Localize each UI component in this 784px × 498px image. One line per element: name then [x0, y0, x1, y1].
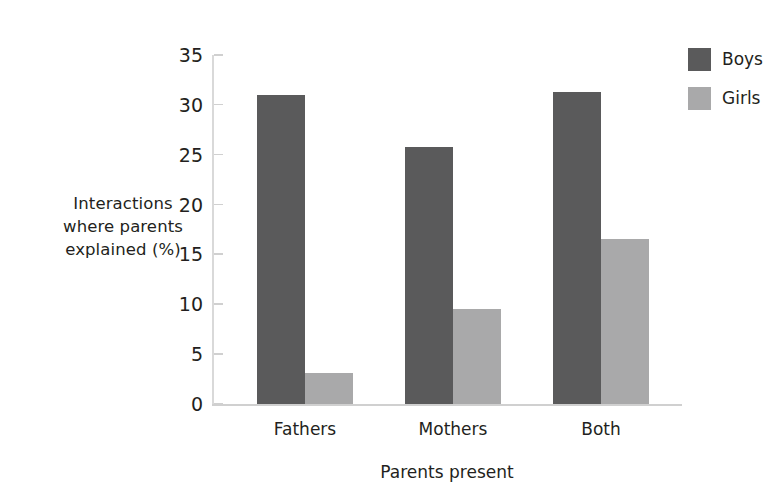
y-axis-tick-mark	[214, 303, 223, 305]
y-axis-tick-mark	[214, 104, 223, 106]
y-axis-line	[212, 55, 214, 404]
bar-mothers-boys	[405, 147, 453, 404]
legend-label-girls: Girls	[722, 90, 760, 107]
y-axis-label-line-3: explained (%)	[48, 238, 198, 261]
y-axis-tick-label: 5	[191, 345, 203, 364]
y-axis-tick-label: 30	[179, 95, 203, 114]
x-axis-label-both: Both	[581, 421, 621, 438]
y-axis-label-line-2: where parents	[48, 215, 198, 238]
bar-both-girls	[601, 239, 649, 404]
y-axis-tick-label: 0	[191, 395, 203, 414]
legend-swatch-girls-icon	[688, 87, 711, 110]
plot-area: 05101520253035 FathersMothersBoth	[212, 55, 682, 404]
y-axis-label-line-1: Interactions	[48, 192, 198, 215]
chart-legend: Boys Girls	[688, 48, 780, 126]
legend-swatch-boys-icon	[688, 48, 711, 71]
y-axis-tick-label: 20	[179, 195, 203, 214]
y-axis-label: Interactions where parents explained (%)	[48, 192, 198, 261]
bar-mothers-girls	[453, 309, 501, 404]
bar-fathers-girls	[305, 373, 353, 404]
y-axis-tick-mark	[214, 353, 223, 355]
y-axis-tick-mark	[214, 204, 223, 206]
legend-item-boys: Boys	[688, 48, 780, 71]
x-axis-line	[212, 404, 682, 406]
x-axis-label-fathers: Fathers	[274, 421, 336, 438]
legend-item-girls: Girls	[688, 87, 780, 110]
bar-fathers-boys	[257, 95, 305, 404]
y-axis-tick-label: 35	[179, 46, 203, 65]
y-axis-tick-mark	[214, 253, 223, 255]
x-axis-label-mothers: Mothers	[419, 421, 488, 438]
x-axis-title: Parents present	[212, 464, 682, 481]
y-axis-tick-mark	[214, 403, 223, 405]
y-axis-tick-label: 10	[179, 295, 203, 314]
y-axis-tick-label: 15	[179, 245, 203, 264]
legend-label-boys: Boys	[722, 51, 763, 68]
y-axis-tick-mark	[214, 154, 223, 156]
bar-both-boys	[553, 92, 601, 404]
y-axis-tick-label: 25	[179, 145, 203, 164]
bar-chart-figure: Interactions where parents explained (%)…	[0, 0, 784, 498]
y-axis-tick-mark	[214, 54, 223, 56]
